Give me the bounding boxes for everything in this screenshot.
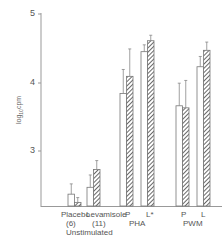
bar-hatched-4 bbox=[183, 108, 190, 206]
y-axis-label: log10cpm bbox=[15, 96, 24, 124]
y-axis-label-log: log bbox=[15, 115, 22, 124]
y-tick-4: 4 bbox=[30, 78, 35, 87]
y-axis-label-cpm: cpm bbox=[15, 96, 22, 109]
bar-open-1 bbox=[87, 187, 94, 206]
bar-open-0 bbox=[68, 194, 75, 206]
x-label-pwm-p: P bbox=[181, 210, 186, 219]
bar-open-4 bbox=[176, 106, 183, 206]
bar-open-3 bbox=[141, 52, 148, 206]
y-axis-label-sub: 10 bbox=[18, 109, 24, 115]
x-label-levamisole-n: (11) bbox=[92, 219, 106, 228]
y-tick-3: 3 bbox=[30, 146, 35, 155]
x-label-unstimulated: Unstimulated bbox=[66, 228, 113, 237]
x-label-pha-l: L* bbox=[146, 210, 154, 219]
x-label-pwm: PWM bbox=[183, 219, 203, 228]
x-label-pha: PHA bbox=[129, 219, 145, 228]
bars bbox=[68, 35, 210, 206]
bar-open-5 bbox=[197, 67, 204, 206]
bar-hatched-2 bbox=[127, 76, 134, 206]
x-label-pha-p: P bbox=[125, 210, 130, 219]
x-label-pwm-l: L bbox=[201, 210, 205, 219]
bar-hatched-1 bbox=[94, 169, 101, 206]
bar-hatched-5 bbox=[204, 50, 211, 206]
bar-open-2 bbox=[120, 93, 127, 206]
y-tick-5: 5 bbox=[30, 9, 35, 18]
bar-hatched-3 bbox=[148, 41, 155, 206]
bar-hatched-0 bbox=[75, 202, 82, 206]
x-label-placebo-n: (6) bbox=[66, 219, 76, 228]
x-label-levamisole: Levamisole bbox=[86, 210, 126, 219]
